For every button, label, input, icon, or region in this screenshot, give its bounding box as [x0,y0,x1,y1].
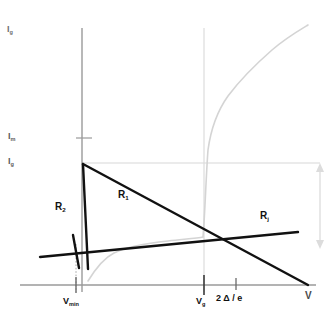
x-tick-label-gap-voltage: 2 Δ / e [216,294,242,303]
x-tick-label-vmin: Vmin [63,297,79,306]
chart-canvas: Ig Im Ig Vmin Vg 2 Δ / e V R1 R2 Rj [0,0,336,323]
x-axis-title: V [305,291,312,301]
annotation-r1: R1 [118,190,129,200]
x-tick-label-vg: Vg [196,297,205,306]
y-tick-label-ig: Ig [8,157,14,166]
iv-characteristic-plot [0,0,336,323]
y-tick-label-im: Im [8,132,15,141]
marker-vmin-intersection [73,235,79,268]
gap-span-arrow [316,163,324,249]
series-load-line-rj [40,232,298,257]
annotation-rj: Rj [260,211,269,221]
y-axis-title: Ig [7,25,13,34]
annotation-r2: R2 [55,202,66,212]
series-load-line-r1 [83,164,308,285]
